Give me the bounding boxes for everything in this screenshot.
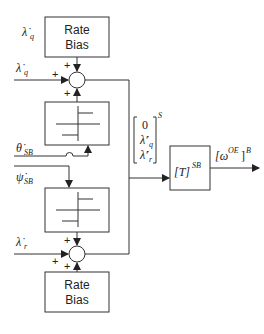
svg-text:B: B bbox=[246, 146, 251, 155]
filter-top-block[interactable] bbox=[45, 102, 109, 145]
svg-text:q: q bbox=[30, 32, 34, 41]
rate-bias-top-line2: Bias bbox=[65, 38, 88, 52]
svg-text:S: S bbox=[158, 111, 162, 120]
svg-text:OE: OE bbox=[228, 146, 239, 155]
svg-text:0: 0 bbox=[142, 118, 148, 132]
svg-text:]: ] bbox=[241, 149, 245, 163]
input-label-theta-sb: θ̇ SB bbox=[16, 141, 33, 157]
summing-junction-bottom bbox=[69, 246, 85, 262]
svg-text:λ̇′: λ̇′ bbox=[139, 148, 149, 162]
svg-text:[ω: [ω bbox=[215, 149, 228, 163]
sign-top-sum-bottom: + bbox=[64, 87, 70, 99]
input-label-lambda-q-bias: λ̇ q bbox=[21, 25, 34, 41]
transform-block[interactable]: [T] SB bbox=[170, 146, 210, 190]
sign-bottom-sum-left: + bbox=[52, 255, 58, 267]
input-label-psi-sb: ψ̇ SB bbox=[16, 170, 33, 186]
transform-label: [T] bbox=[174, 165, 190, 179]
block-diagram: λ̇ q Rate Bias + λ̇ q + + θ̇ SB ψ̇ SB bbox=[0, 0, 264, 334]
svg-text:λ̇′: λ̇′ bbox=[139, 133, 149, 147]
svg-text:q: q bbox=[149, 140, 153, 149]
sign-bottom-sum-top: + bbox=[64, 234, 70, 246]
summing-junction-top bbox=[69, 72, 85, 88]
input-label-lambda-r: λ̇ r bbox=[15, 235, 28, 251]
sign-bottom-sum-bottom: + bbox=[64, 260, 70, 272]
svg-text:r: r bbox=[149, 155, 153, 164]
output-label: [ω OE ] B bbox=[215, 146, 251, 163]
rate-vector-label: 0 λ̇′ q λ̇′ r S bbox=[134, 111, 162, 164]
rate-bias-bottom-line1: Rate bbox=[64, 278, 90, 292]
svg-text:q: q bbox=[24, 68, 28, 77]
svg-text:r: r bbox=[24, 242, 28, 251]
sign-top-sum-left: + bbox=[52, 68, 58, 80]
transform-superscript: SB bbox=[192, 161, 201, 170]
rate-bias-bottom-block[interactable]: Rate Bias bbox=[45, 272, 109, 312]
filter-bottom-block[interactable] bbox=[45, 188, 109, 232]
input-label-lambda-q: λ̇ q bbox=[15, 61, 28, 77]
rate-bias-bottom-line2: Bias bbox=[65, 293, 88, 307]
sign-top-sum-top: + bbox=[64, 59, 70, 71]
svg-text:SB: SB bbox=[24, 177, 33, 186]
rate-bias-top-line1: Rate bbox=[64, 23, 90, 37]
rate-bias-top-block[interactable]: Rate Bias bbox=[45, 17, 109, 57]
